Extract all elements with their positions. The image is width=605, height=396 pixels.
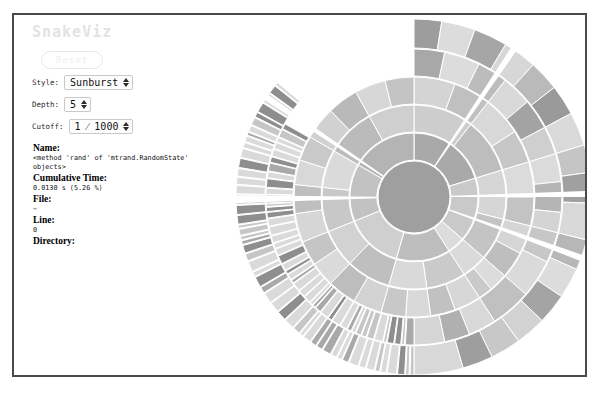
sunburst-segment-l5-8[interactable] [562,172,587,203]
controls-panel: SnakeViz Reset Style: Sunburst Depth: 5 … [14,15,229,375]
cutoff-select-value: 1 ⁄ 1000 [75,121,119,132]
sunburst-root-node[interactable] [378,161,450,233]
info-directory-key: Directory: [33,236,218,247]
depth-label: Depth: [32,100,59,109]
sunburst-svg[interactable] [214,15,587,377]
style-label: Style: [32,78,59,87]
info-name-value: <method 'rand' of 'mtrand.RandomState' o… [33,154,218,172]
cutoff-select[interactable]: 1 ⁄ 1000 [69,119,134,134]
style-select-value: Sunburst [70,77,118,88]
cutoff-label: Cutoff: [32,122,64,131]
sunburst-segment-l4-14[interactable] [414,315,445,345]
cutoff-stepper-icon[interactable] [123,122,129,132]
info-cumtime-key: Cumulative Time: [33,173,218,184]
sunburst-thin-segment-l5-35[interactable] [236,185,265,194]
info-file-value: ~ [33,205,218,214]
snakeviz-app-frame: SnakeViz Reset Style: Sunburst Depth: 5 … [12,13,587,377]
sunburst-thin-segment-l5-0[interactable] [410,346,414,375]
info-cumtime-value: 0.0130 s (5.26 %) [33,184,218,193]
cutoff-control-row: Cutoff: 1 ⁄ 1000 [32,119,133,134]
depth-stepper-icon[interactable] [81,100,87,110]
info-directory-value [33,247,218,249]
app-title: SnakeViz [32,23,112,41]
sunburst-segment-l3-12[interactable] [406,289,431,317]
depth-control-row: Depth: 5 [32,97,91,112]
depth-select-value: 5 [70,99,76,110]
style-stepper-icon[interactable] [123,78,129,88]
node-info-panel: Name: <method 'rand' of 'mtrand.RandomSt… [33,143,218,250]
info-line-value: 0 [33,226,218,235]
info-file-key: File: [33,194,218,205]
style-select[interactable]: Sunburst [64,75,133,90]
info-name-key: Name: [33,143,218,154]
info-line-key: Line: [33,215,218,226]
reset-button[interactable]: Reset [41,51,103,69]
sunburst-segment-l5-16[interactable] [414,340,463,375]
sunburst-chart[interactable] [214,15,587,377]
page-root: SnakeViz Reset Style: Sunburst Depth: 5 … [0,0,605,396]
sunburst-thin-segment-l4-0[interactable] [405,318,414,345]
style-control-row: Style: Sunburst [32,75,133,90]
depth-select[interactable]: 5 [64,97,91,112]
